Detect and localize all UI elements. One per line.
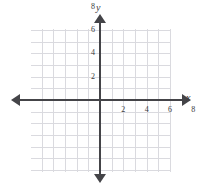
- gridline-horizontal: [31, 147, 171, 148]
- y-axis-line: [99, 22, 101, 177]
- gridline-horizontal: [31, 158, 171, 159]
- x-axis-label: x: [186, 93, 190, 103]
- y-axis-up-arrow-icon: [94, 14, 106, 23]
- gridline-horizontal: [31, 30, 171, 31]
- x-tick-label: 4: [145, 106, 149, 114]
- y-axis-down-arrow-icon: [94, 174, 106, 183]
- gridline-horizontal: [31, 65, 171, 66]
- gridline-horizontal: [31, 53, 171, 54]
- x-tick-label: 6: [168, 106, 172, 114]
- gridline-horizontal: [31, 42, 171, 43]
- y-tick-label: 4: [81, 49, 95, 57]
- gridline-horizontal: [31, 77, 171, 78]
- coordinate-plane-figure: x y 246810 246810: [0, 0, 202, 191]
- y-tick-label: 2: [81, 73, 95, 81]
- x-tick-label: 2: [121, 106, 125, 114]
- gridline-horizontal: [31, 123, 171, 124]
- x-axis-left-arrow-icon: [11, 94, 20, 106]
- x-axis-line: [17, 99, 185, 101]
- gridline-horizontal: [31, 88, 171, 89]
- gridline-horizontal: [31, 170, 171, 171]
- x-tick-label: 8: [191, 106, 195, 114]
- gridline-horizontal: [31, 135, 171, 136]
- gridline-horizontal: [31, 112, 171, 113]
- y-axis-label: y: [96, 3, 100, 13]
- y-tick-label: 8: [81, 3, 95, 11]
- y-tick-label: 6: [81, 26, 95, 34]
